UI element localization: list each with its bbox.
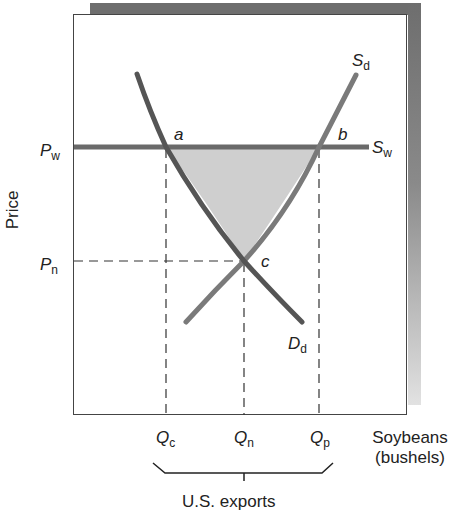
sw-label: Sw <box>372 138 392 160</box>
point-b-label: b <box>338 125 347 145</box>
exports-label: U.S. exports <box>182 492 276 512</box>
point-a-label: a <box>174 125 183 145</box>
shaded-triangle-abc <box>166 147 319 261</box>
y-tick-pn: Pn <box>40 255 58 277</box>
x-tick-qc: Qc <box>156 428 175 450</box>
point-c-label: c <box>261 252 270 272</box>
x-axis-label: Soybeans (bushels) <box>362 428 458 468</box>
sd-label: Sd <box>352 51 370 73</box>
x-tick-qn: Qn <box>234 428 254 450</box>
dd-label: Dd <box>288 334 307 356</box>
y-tick-pw: Pw <box>40 141 60 163</box>
y-axis-label: Price <box>3 191 23 230</box>
x-tick-qp: Qp <box>310 428 330 450</box>
exports-bracket <box>153 463 333 481</box>
